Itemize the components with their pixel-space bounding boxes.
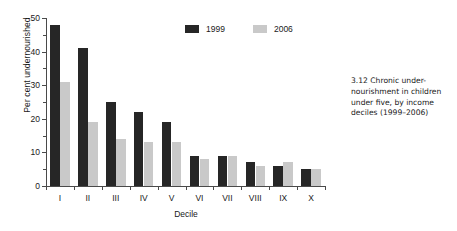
y-axis-tick-label: 10 <box>31 147 40 157</box>
y-axis-tick <box>42 152 46 153</box>
legend-swatch-icon-1999 <box>185 25 199 33</box>
x-axis-title: Decile <box>46 209 326 219</box>
x-axis-tick <box>297 186 298 190</box>
x-axis-tick-label-III: III <box>112 193 119 203</box>
figure-caption-text: 3.12 Chronic under-nourishment in childr… <box>351 76 441 117</box>
bar-2006-I <box>60 82 70 186</box>
x-axis-tick-label-IV: IV <box>140 193 148 203</box>
bar-1999-IV <box>134 112 144 186</box>
x-axis-tick <box>74 186 75 190</box>
bar-2006-V <box>172 142 182 186</box>
y-axis-tick <box>42 52 46 53</box>
x-axis-tick-label-I: I <box>59 193 61 203</box>
y-axis-tick-label: 30 <box>31 80 40 90</box>
x-axis-tick-label-X: X <box>308 193 314 203</box>
y-axis-minor-tick <box>43 102 46 103</box>
bar-2006-III <box>116 139 126 186</box>
bar-1999-VIII <box>246 162 256 186</box>
x-axis-tick-label-VI: VI <box>195 193 203 203</box>
bar-1999-I <box>50 25 60 186</box>
x-axis-tick <box>269 186 270 190</box>
y-axis-tick-label: 0 <box>35 181 40 191</box>
figure-chronic-undernourishment: Per cent undernourished 01020304050 Deci… <box>0 0 457 231</box>
x-axis-tick-label-II: II <box>85 193 90 203</box>
bar-2006-VIII <box>256 166 266 186</box>
figure-caption: 3.12 Chronic under-nourishment in childr… <box>351 76 455 119</box>
bar-1999-II <box>78 48 88 186</box>
y-axis-minor-tick <box>43 35 46 36</box>
x-axis-tick-label-V: V <box>169 193 175 203</box>
x-axis-tick <box>158 186 159 190</box>
y-axis-tick <box>42 18 46 19</box>
x-axis-tick <box>130 186 131 190</box>
y-axis-minor-tick <box>43 68 46 69</box>
bar-1999-VII <box>218 156 228 186</box>
legend-label-1999: 1999 <box>206 24 225 34</box>
bar-2006-IX <box>283 162 293 186</box>
legend-item-1999: 1999 <box>185 24 225 34</box>
legend: 1999 2006 <box>185 24 293 34</box>
y-axis-minor-tick <box>43 169 46 170</box>
y-axis-tick-label: 50 <box>31 13 40 23</box>
bar-2006-X <box>311 169 321 186</box>
bar-2006-VI <box>200 159 210 186</box>
y-axis-minor-tick <box>43 136 46 137</box>
bar-2006-II <box>88 122 98 186</box>
plot-area: 01020304050 <box>46 18 325 186</box>
x-axis-tick <box>102 186 103 190</box>
bar-1999-IX <box>273 166 283 186</box>
bar-2006-VII <box>228 156 238 186</box>
y-axis-tick <box>42 119 46 120</box>
bar-1999-III <box>106 102 116 186</box>
legend-label-2006: 2006 <box>274 24 293 34</box>
bar-1999-V <box>162 122 172 186</box>
bar-1999-VI <box>190 156 200 186</box>
legend-swatch-icon-2006 <box>253 25 267 33</box>
y-axis-tick <box>42 85 46 86</box>
x-axis-tick-label-VIII: VIII <box>249 193 262 203</box>
x-axis-tick-label-VII: VII <box>222 193 232 203</box>
x-axis-tick <box>46 186 47 190</box>
x-axis-tick <box>213 186 214 190</box>
x-axis-tick-label-IX: IX <box>279 193 287 203</box>
x-axis-tick <box>325 186 326 190</box>
bar-2006-IV <box>144 142 154 186</box>
x-axis-tick <box>186 186 187 190</box>
y-axis-tick-label: 40 <box>31 47 40 57</box>
y-axis-tick-label: 20 <box>31 114 40 124</box>
bar-1999-X <box>301 169 311 186</box>
legend-item-2006: 2006 <box>253 24 293 34</box>
x-axis-tick <box>241 186 242 190</box>
